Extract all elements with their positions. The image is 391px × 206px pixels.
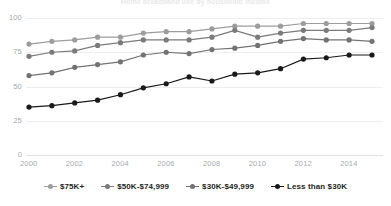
data-point bbox=[72, 37, 77, 42]
data-point bbox=[49, 103, 54, 108]
data-point bbox=[26, 104, 31, 109]
y-axis-tick-label: 25 bbox=[0, 117, 22, 125]
data-point bbox=[347, 28, 352, 33]
x-axis-tick-label: 2008 bbox=[203, 159, 221, 168]
data-point bbox=[369, 52, 374, 57]
data-point bbox=[347, 21, 352, 26]
x-axis-tick-label: 2012 bbox=[294, 159, 312, 168]
legend-item[interactable]: $30K-$49,999 bbox=[186, 182, 254, 191]
data-point bbox=[49, 70, 54, 75]
data-point bbox=[186, 37, 191, 42]
data-point bbox=[301, 57, 306, 62]
data-point bbox=[278, 30, 283, 35]
data-point bbox=[164, 37, 169, 42]
line-chart: Home broadband use by household income 0… bbox=[0, 0, 391, 206]
series-line bbox=[29, 23, 372, 44]
y-axis-tick-label: 0 bbox=[0, 151, 22, 159]
data-point bbox=[95, 43, 100, 48]
legend-label: Less than $30K bbox=[287, 182, 347, 191]
data-point bbox=[141, 37, 146, 42]
x-axis-line bbox=[26, 155, 383, 156]
data-point bbox=[141, 30, 146, 35]
data-point bbox=[49, 39, 54, 44]
data-point bbox=[324, 37, 329, 42]
chart-title: Home broadband use by household income bbox=[0, 0, 391, 6]
data-point bbox=[95, 98, 100, 103]
x-axis-tick-label: 2010 bbox=[249, 159, 267, 168]
data-point bbox=[118, 35, 123, 40]
data-point bbox=[26, 73, 31, 78]
data-point bbox=[49, 50, 54, 55]
data-point bbox=[369, 39, 374, 44]
legend-label: $30K-$49,999 bbox=[202, 182, 254, 191]
series-3 bbox=[26, 36, 374, 78]
data-point bbox=[255, 24, 260, 29]
data-point bbox=[278, 39, 283, 44]
data-point bbox=[26, 54, 31, 59]
x-axis-tick-label: 2002 bbox=[66, 159, 84, 168]
y-axis-tick-label: 100 bbox=[0, 14, 22, 22]
series-1 bbox=[26, 21, 374, 47]
legend-item[interactable]: $75K+ bbox=[44, 182, 84, 191]
data-point bbox=[301, 36, 306, 41]
data-point bbox=[324, 28, 329, 33]
legend-label: $50K-$74,999 bbox=[117, 182, 169, 191]
data-point bbox=[95, 35, 100, 40]
legend-label: $75K+ bbox=[60, 182, 84, 191]
data-point bbox=[369, 25, 374, 30]
y-axis-tick-label: 50 bbox=[0, 83, 22, 91]
chart-legend: $75K+$50K-$74,999$30K-$49,999Less than $… bbox=[0, 182, 391, 191]
legend-item[interactable]: Less than $30K bbox=[271, 182, 347, 191]
x-axis-tick-label: 2004 bbox=[111, 159, 129, 168]
data-point bbox=[186, 51, 191, 56]
data-point bbox=[72, 48, 77, 53]
x-axis-tick-label: 2014 bbox=[340, 159, 358, 168]
data-point bbox=[255, 35, 260, 40]
data-point bbox=[209, 26, 214, 31]
data-point bbox=[141, 52, 146, 57]
data-point bbox=[209, 78, 214, 83]
legend-marker-icon bbox=[44, 183, 57, 191]
data-point bbox=[301, 21, 306, 26]
legend-marker-icon bbox=[186, 183, 199, 191]
legend-marker-icon bbox=[271, 183, 284, 191]
data-point bbox=[26, 41, 31, 46]
data-point bbox=[95, 62, 100, 67]
data-point bbox=[301, 28, 306, 33]
series-line bbox=[29, 55, 372, 107]
data-point bbox=[186, 74, 191, 79]
plot-area bbox=[26, 18, 383, 155]
data-point bbox=[118, 92, 123, 97]
data-point bbox=[255, 70, 260, 75]
data-point bbox=[118, 40, 123, 45]
legend-marker-icon bbox=[101, 183, 114, 191]
data-point bbox=[347, 52, 352, 57]
data-point bbox=[209, 35, 214, 40]
legend-item[interactable]: $50K-$74,999 bbox=[101, 182, 169, 191]
data-point bbox=[164, 81, 169, 86]
series-line bbox=[29, 39, 372, 76]
data-point bbox=[186, 29, 191, 34]
data-point bbox=[278, 24, 283, 29]
data-point bbox=[324, 55, 329, 60]
x-axis-tick-label: 2006 bbox=[157, 159, 175, 168]
y-axis-tick-label: 75 bbox=[0, 48, 22, 56]
data-point bbox=[324, 21, 329, 26]
data-point bbox=[141, 85, 146, 90]
data-point bbox=[278, 66, 283, 71]
data-point bbox=[232, 46, 237, 51]
data-point bbox=[72, 65, 77, 70]
data-point bbox=[209, 47, 214, 52]
data-point bbox=[255, 43, 260, 48]
data-point bbox=[232, 72, 237, 77]
data-point bbox=[164, 50, 169, 55]
data-point bbox=[118, 59, 123, 64]
series-4 bbox=[26, 52, 374, 109]
data-point bbox=[232, 28, 237, 33]
data-point bbox=[164, 29, 169, 34]
data-point bbox=[347, 37, 352, 42]
x-axis-tick-label: 2000 bbox=[20, 159, 38, 168]
series-layer bbox=[26, 18, 383, 155]
data-point bbox=[72, 100, 77, 105]
